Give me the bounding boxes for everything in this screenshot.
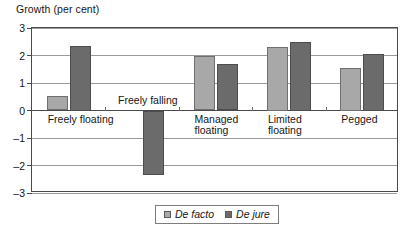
gridline bbox=[32, 193, 397, 194]
y-axis-label: –2 bbox=[13, 160, 25, 172]
y-axis-tick bbox=[27, 165, 32, 166]
y-axis-label: 0 bbox=[19, 105, 25, 117]
y-axis-label: –1 bbox=[13, 132, 25, 144]
bar bbox=[194, 56, 215, 110]
bar bbox=[290, 42, 311, 111]
y-axis-tick bbox=[27, 138, 32, 139]
y-axis-tick bbox=[27, 55, 32, 56]
bar bbox=[363, 54, 384, 110]
category-label-line: floating bbox=[195, 125, 239, 137]
category-label-line: Freely floating bbox=[48, 114, 114, 126]
x-axis-tick bbox=[326, 107, 327, 111]
x-axis-tick bbox=[252, 107, 253, 111]
plot-area: 3210–1–2–3Freely floatingFreely fallingM… bbox=[32, 28, 397, 191]
gridline bbox=[32, 28, 397, 29]
chart-legend: De facto De jure bbox=[155, 205, 279, 224]
category-label-line: Freely falling bbox=[118, 95, 178, 107]
bar-chart: Growth (per cent) 3210–1–2–3Freely float… bbox=[0, 0, 412, 237]
category-label: Pegged bbox=[341, 114, 377, 126]
y-axis-tick bbox=[27, 83, 32, 84]
chart-axis-title: Growth (per cent) bbox=[16, 3, 99, 15]
y-axis-label: 2 bbox=[19, 50, 25, 62]
legend-label-de-jure: De jure bbox=[236, 208, 270, 220]
y-axis-label: 3 bbox=[19, 22, 25, 34]
x-axis-tick bbox=[179, 107, 180, 111]
gridline bbox=[32, 138, 397, 139]
category-label: Managedfloating bbox=[195, 114, 239, 137]
legend-entry-de-jure: De jure bbox=[225, 208, 270, 220]
gridline bbox=[32, 165, 397, 166]
bar bbox=[70, 46, 91, 111]
legend-swatch-de-facto-icon bbox=[164, 211, 171, 218]
category-label-line: floating bbox=[268, 125, 302, 137]
legend-entry-de-facto: De facto bbox=[164, 208, 214, 220]
category-label: Freely falling bbox=[118, 95, 178, 107]
legend-label-de-facto: De facto bbox=[175, 208, 214, 220]
bar bbox=[47, 96, 68, 110]
bar bbox=[143, 111, 164, 176]
bar bbox=[340, 68, 361, 111]
y-axis-tick bbox=[27, 193, 32, 194]
plot-frame: 3210–1–2–3Freely floatingFreely fallingM… bbox=[31, 27, 398, 192]
legend-swatch-de-jure-icon bbox=[225, 211, 232, 218]
category-label: Freely floating bbox=[48, 114, 114, 126]
category-label-line: Pegged bbox=[341, 114, 377, 126]
y-axis-tick bbox=[27, 110, 32, 111]
category-label: Limitedfloating bbox=[268, 114, 302, 137]
y-axis-label: 1 bbox=[19, 77, 25, 89]
y-axis-tick bbox=[27, 28, 32, 29]
y-axis-label: –3 bbox=[13, 187, 25, 199]
bar bbox=[217, 64, 238, 110]
x-axis-tick bbox=[105, 107, 106, 111]
bar bbox=[267, 47, 288, 110]
